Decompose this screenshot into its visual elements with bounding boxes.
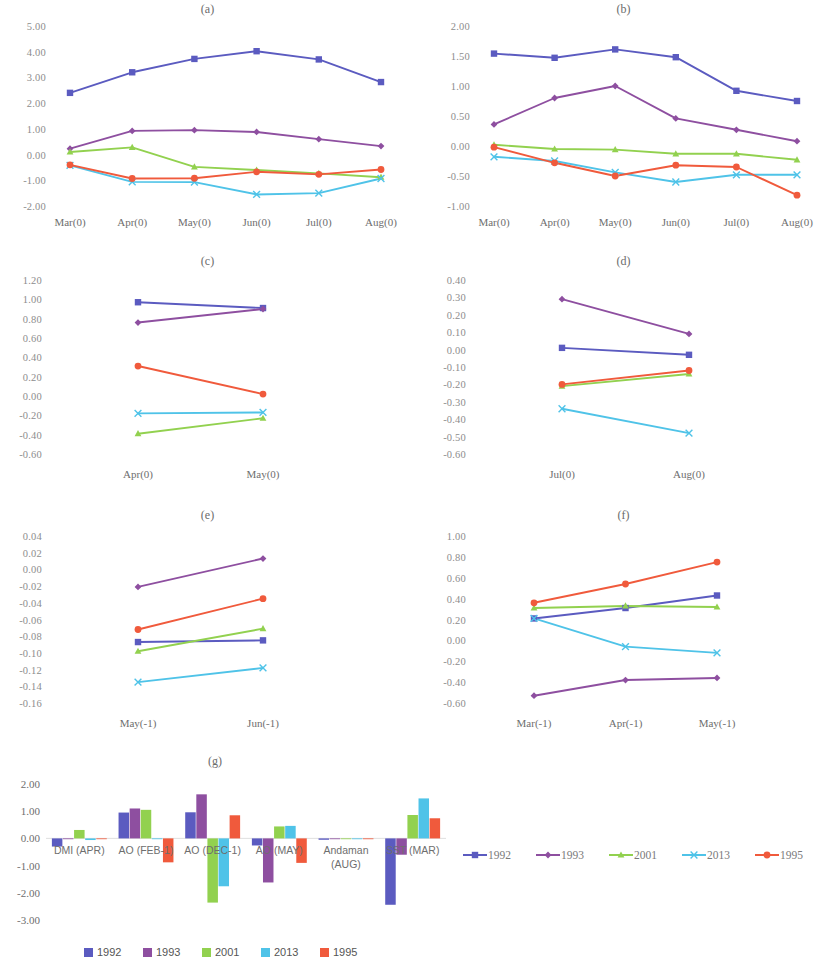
data-point-marker [315,171,322,178]
line-series-canvas [416,252,831,504]
panel-a-plot: 5.004.003.002.001.000.00-1.00-2.00Mar(0)… [0,0,415,250]
data-point-marker [491,121,498,128]
bar-1992 [319,838,330,839]
data-point-marker [260,555,267,562]
bar-2001 [274,826,285,838]
legend-marker-2013 [681,848,707,862]
data-point-marker [129,128,136,135]
series-line-1992 [70,51,381,93]
bar-1993 [63,838,74,839]
bar-series-canvas [0,752,460,970]
bar-legend-item-2001: 2001 [202,946,239,958]
x-axis-tick-label: Apr(0) [117,216,147,228]
data-point-marker [733,126,740,133]
panel-d-plot: 0.400.300.200.100.00-0.10-0.20-0.30-0.40… [416,252,831,504]
series-line-1995 [138,599,263,630]
data-point-marker [714,559,721,566]
series-line-1995 [138,366,263,394]
bar-category-label: AO (FEB-1) [119,844,174,857]
data-point-marker [491,144,498,151]
data-point-marker [491,50,497,56]
bar-legend-swatch [143,948,152,957]
bar-legend-label: 2013 [274,946,298,958]
bar-2013 [352,838,363,839]
series-line-1993 [562,299,689,334]
bar-2001 [141,810,152,839]
data-point-marker [191,56,197,62]
line-legend-label: 1995 [780,849,803,861]
data-point-marker [135,299,141,305]
series-line-2013 [138,668,263,682]
bar-2013 [419,798,430,838]
bar-1993 [330,838,341,839]
bar-legend-item-1992: 1992 [84,946,121,958]
bar-legend-swatch [320,948,329,957]
bar-category-label: AO (DEC-1) [184,844,241,857]
data-point-marker [135,639,141,645]
line-legend-label: 2001 [634,849,657,861]
series-line-1995 [70,165,381,179]
line-legend-item-1993: 1993 [535,848,584,862]
data-point-marker [378,143,385,150]
series-line-1992 [562,348,689,355]
series-line-1993 [70,130,381,149]
data-point-marker [378,79,384,85]
x-axis-tick-label: Mar(0) [54,216,85,228]
data-point-marker [672,115,679,122]
bar-1993 [196,794,207,838]
bar-legend-swatch [84,948,93,957]
data-point-marker [67,161,74,168]
legend-marker-1995 [754,848,780,862]
data-point-marker [253,129,260,136]
data-point-marker [733,164,740,171]
data-point-marker [316,56,322,62]
data-point-marker [551,95,558,102]
data-point-marker [794,98,800,104]
data-point-marker [612,83,619,90]
data-point-marker [559,381,566,388]
data-point-marker [253,48,259,54]
series-line-2013 [70,165,381,194]
x-axis-tick-label: Aug(0) [781,216,813,228]
bar-series-legend: 19921993200120131995 [84,946,384,966]
legend-marker-1993 [535,848,561,862]
x-axis-tick-label: Apr(-1) [609,717,643,729]
x-axis-tick-label: May(0) [247,468,280,480]
line-legend-label: 2013 [707,849,730,861]
data-point-marker [714,675,721,682]
x-axis-tick-label: Apr(0) [123,468,153,480]
bar-1995 [230,815,241,838]
x-axis-tick-label: Mar(-1) [517,717,552,729]
panel-d: (d) 0.400.300.200.100.00-0.10-0.20-0.30-… [416,252,831,504]
x-axis-tick-label: Mar(0) [478,216,509,228]
data-point-marker [135,319,142,326]
data-point-marker [612,46,618,52]
panel-f: (f) 1.000.800.600.400.200.00-0.20-0.40-0… [416,506,831,751]
bar-legend-item-1993: 1993 [143,946,180,958]
bar-legend-label: 1995 [333,946,357,958]
panel-c: (c) 1.201.000.800.600.400.200.00-0.20-0.… [0,252,415,504]
panel-f-plot: 1.000.800.600.400.200.00-0.20-0.40-0.60M… [416,506,831,751]
bar-category-label: Andaman(AUG) [324,844,369,870]
x-axis-tick-label: Jul(0) [306,216,332,228]
x-axis-tick-label: Apr(0) [540,216,570,228]
bar-legend-swatch [202,948,211,957]
data-point-marker [260,595,267,602]
panel-a: (a) 5.004.003.002.001.000.00-1.00-2.00Ma… [0,0,415,250]
x-axis-tick-label: Jun(0) [243,216,271,228]
data-point-marker [714,592,720,598]
data-point-marker [733,88,739,94]
data-point-marker [794,192,801,199]
line-series-canvas [416,506,831,751]
x-axis-tick-label: May(-1) [699,717,736,729]
x-axis-tick-label: Aug(0) [673,468,705,480]
bar-category-label: SST (MAR) [386,844,439,857]
bar-category-label: DMI (APR) [54,844,105,857]
x-axis-tick-label: Jul(0) [724,216,750,228]
data-point-marker [794,138,801,145]
line-series-canvas [0,252,415,504]
panel-b: (b) 2.001.501.000.500.00-0.50-1.00Mar(0)… [416,0,831,250]
data-point-marker [672,162,679,169]
bar-2001 [407,815,418,838]
line-legend-item-1995: 1995 [754,848,803,862]
